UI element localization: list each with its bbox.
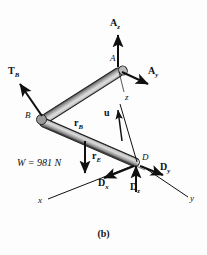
vector-subscript-Dy: y <box>167 167 170 174</box>
vector-subscript-Dx: x <box>105 183 108 190</box>
vector-Dx <box>104 166 134 178</box>
x-axis-label: x <box>38 196 42 205</box>
vector-subscript-Dz: z <box>137 187 140 194</box>
vector-Ay <box>122 72 148 84</box>
point-label-D: D <box>142 153 149 162</box>
vector-label-rB: rB <box>74 118 83 131</box>
vector-subscript-Az: z <box>117 23 120 30</box>
vector-label-Dz: Dz <box>130 182 140 195</box>
weight-label: W = 981 N <box>17 158 61 168</box>
vector-label-rE: rE <box>92 151 101 164</box>
point-label-B: B <box>25 111 31 120</box>
vector-subscript-rB: B <box>78 123 83 130</box>
vector-subscript-TB: B <box>15 71 20 78</box>
vector-label-Dx: Dx <box>98 178 109 191</box>
vector-label-Ay: Ay <box>148 66 158 79</box>
vector-label-Dy: Dy <box>160 162 170 175</box>
rod-segment-AB <box>39 66 125 125</box>
vector-subscript-Ay: y <box>155 71 158 78</box>
z-axis-label: z <box>125 93 129 102</box>
vector-label-TB: TB <box>8 66 19 79</box>
y-axis-label: y <box>190 194 194 203</box>
point-label-A: A <box>110 54 116 63</box>
free-body-diagram <box>0 0 207 255</box>
vector-subscript-rE: E <box>96 156 101 163</box>
vector-symbol-TB: T <box>8 65 15 76</box>
vector-u <box>118 110 122 141</box>
vector-label-Az: Az <box>110 18 120 31</box>
figure-caption: (b) <box>0 228 207 239</box>
vector-TB <box>20 84 42 116</box>
vector-label-u: u <box>104 108 110 118</box>
